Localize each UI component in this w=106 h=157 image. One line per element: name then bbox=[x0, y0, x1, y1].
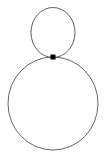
two-circles-diagram bbox=[0, 0, 106, 157]
background-rect bbox=[0, 0, 106, 157]
figure-canvas bbox=[0, 0, 106, 157]
basepoint-dot bbox=[51, 55, 56, 60]
